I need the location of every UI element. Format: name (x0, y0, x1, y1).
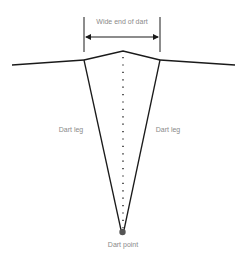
dart-point-label: Dart point (108, 241, 138, 248)
dart-top-edge (84, 51, 160, 60)
dart-diagram (0, 0, 244, 260)
dart-leg-right-line (124, 60, 160, 230)
seam-line-left (12, 60, 84, 65)
dart-leg-left-label: Dart leg (59, 126, 84, 133)
wide-end-label: Wide end of dart (96, 18, 147, 25)
dart-point-marker (119, 229, 125, 235)
dart-leg-right-label: Dart leg (156, 126, 181, 133)
seam-line-right (160, 60, 235, 65)
dart-leg-left-line (84, 60, 121, 230)
